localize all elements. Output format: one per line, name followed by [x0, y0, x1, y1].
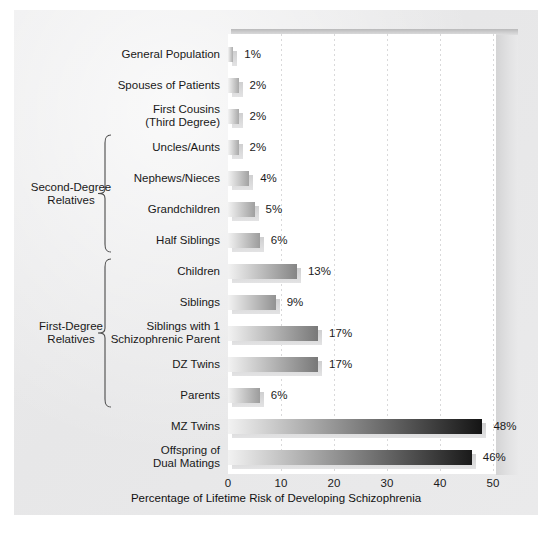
- bar-value-label: 46%: [483, 450, 506, 465]
- category-label: Uncles/Aunts: [10, 141, 220, 154]
- bar-row: [228, 326, 324, 341]
- category-label: Half Siblings: [10, 234, 220, 247]
- x-tick-label: 50: [473, 477, 513, 489]
- bar: [228, 233, 260, 248]
- bar: [228, 109, 239, 124]
- category-label: MZ Twins: [10, 420, 220, 433]
- bar: [228, 357, 318, 372]
- gridline-40: [440, 34, 441, 474]
- group-label: First-Degree Relatives: [16, 320, 126, 346]
- bar-row: [228, 109, 245, 124]
- bar: [228, 295, 276, 310]
- category-label: Parents: [10, 389, 220, 402]
- bar: [228, 202, 255, 217]
- bar-value-label: 13%: [308, 264, 331, 279]
- category-label: Offspring of Dual Matings: [10, 444, 220, 470]
- x-tick-label: 40: [420, 477, 460, 489]
- bar: [228, 264, 297, 279]
- bar-value-label: 6%: [271, 233, 288, 248]
- bar: [228, 326, 318, 341]
- bar-value-label: 17%: [329, 357, 352, 372]
- x-tick-label: 10: [261, 477, 301, 489]
- bar-row: [228, 388, 266, 403]
- bar-row: [228, 264, 303, 279]
- bar-row: [228, 171, 255, 186]
- bar-value-label: 2%: [250, 140, 267, 155]
- bar-row: [228, 233, 266, 248]
- plot-right-edge-shadow: [496, 29, 518, 475]
- bar-row: [228, 419, 488, 434]
- bar-value-label: 4%: [260, 171, 277, 186]
- bar: [228, 450, 472, 465]
- category-label: Spouses of Patients: [10, 79, 220, 92]
- gridline-30: [387, 34, 388, 474]
- bar-row: [228, 295, 282, 310]
- bar: [228, 171, 249, 186]
- gridline-50: [493, 34, 494, 474]
- bar-row: [228, 357, 324, 372]
- bar-value-label: 9%: [287, 295, 304, 310]
- bar-row: [228, 202, 261, 217]
- bar-value-label: 6%: [271, 388, 288, 403]
- gridline-20: [334, 34, 335, 474]
- x-tick-label: 0: [208, 477, 248, 489]
- schizophrenia-risk-chart: General PopulationSpouses of PatientsFir…: [0, 0, 552, 537]
- bar-value-label: 2%: [250, 78, 267, 93]
- gridline-10: [281, 34, 282, 474]
- bar-value-label: 2%: [250, 109, 267, 124]
- x-tick-label: 20: [314, 477, 354, 489]
- bar-row: [228, 140, 245, 155]
- bar-value-label: 1%: [244, 47, 261, 62]
- bar: [228, 78, 239, 93]
- category-label: General Population: [10, 48, 220, 61]
- group-label: Second-Degree Relatives: [16, 181, 126, 207]
- x-axis-title: Percentage of Lifetime Risk of Developin…: [0, 492, 552, 504]
- bar-row: [228, 78, 245, 93]
- bar: [228, 47, 233, 62]
- bar: [228, 140, 239, 155]
- category-label: First Cousins (Third Degree): [10, 103, 220, 129]
- bar-row: [228, 450, 478, 465]
- bar: [228, 419, 482, 434]
- bar-value-label: 5%: [266, 202, 283, 217]
- bar: [228, 388, 260, 403]
- bar-value-label: 48%: [493, 419, 516, 434]
- x-tick-label: 30: [367, 477, 407, 489]
- category-label: Siblings: [10, 296, 220, 309]
- plot-area: [228, 34, 496, 474]
- category-label: Children: [10, 265, 220, 278]
- bar-value-label: 17%: [329, 326, 352, 341]
- bar-row: [228, 47, 239, 62]
- category-label: DZ Twins: [10, 358, 220, 371]
